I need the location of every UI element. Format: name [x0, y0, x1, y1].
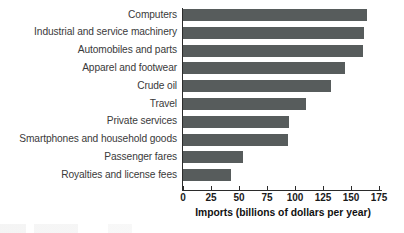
- category-label: Private services: [0, 115, 177, 127]
- bar: [183, 62, 345, 74]
- category-label: Travel: [0, 98, 177, 110]
- bar-row: [183, 151, 243, 163]
- category-label: Smartphones and household goods: [0, 133, 177, 145]
- tick-mark: [323, 186, 324, 191]
- value-axis-line: [182, 190, 382, 191]
- bar-row: [183, 98, 306, 110]
- tick-label: 150: [343, 192, 360, 203]
- tick-label: 100: [287, 192, 304, 203]
- bar: [183, 169, 231, 181]
- tick-mark: [211, 186, 212, 191]
- bar: [183, 151, 243, 163]
- tick-label: 50: [233, 192, 244, 203]
- value-axis-title: Imports (billions of dollars per year): [183, 207, 383, 218]
- bar-row: [183, 169, 231, 181]
- bar-row: [183, 27, 364, 39]
- bar: [183, 9, 367, 21]
- bar: [183, 80, 331, 92]
- category-label: Apparel and footwear: [0, 62, 177, 74]
- tick-label: 75: [261, 192, 272, 203]
- bar-row: [183, 45, 363, 57]
- category-label: Industrial and service machinery: [0, 26, 177, 38]
- bar-row: [183, 116, 289, 128]
- category-label: Royalties and license fees: [0, 169, 177, 181]
- bar: [183, 45, 363, 57]
- tick-label: 25: [205, 192, 216, 203]
- bar: [183, 98, 306, 110]
- tick-label: 125: [315, 192, 332, 203]
- bar-row: [183, 62, 345, 74]
- plot-area: [183, 9, 379, 190]
- tick-label: 0: [180, 192, 186, 203]
- tick-mark: [239, 186, 240, 191]
- bar-row: [183, 134, 288, 146]
- category-label: Crude oil: [0, 80, 177, 92]
- tick-mark: [379, 186, 380, 191]
- bar-row: [183, 9, 367, 21]
- category-axis-labels: ComputersIndustrial and service machiner…: [0, 9, 177, 190]
- category-label: Automobiles and parts: [0, 44, 177, 56]
- category-label: Computers: [0, 9, 177, 21]
- horizontal-bar-chart: ComputersIndustrial and service machiner…: [0, 0, 404, 233]
- tick-mark: [295, 186, 296, 191]
- bar: [183, 27, 364, 39]
- tick-mark: [183, 186, 184, 191]
- tick-label: 175: [371, 192, 388, 203]
- page-scan-artifacts: [0, 224, 404, 233]
- bar: [183, 116, 289, 128]
- bar: [183, 134, 288, 146]
- category-label: Passenger fares: [0, 151, 177, 163]
- bar-row: [183, 80, 331, 92]
- tick-mark: [267, 186, 268, 191]
- tick-mark: [351, 186, 352, 191]
